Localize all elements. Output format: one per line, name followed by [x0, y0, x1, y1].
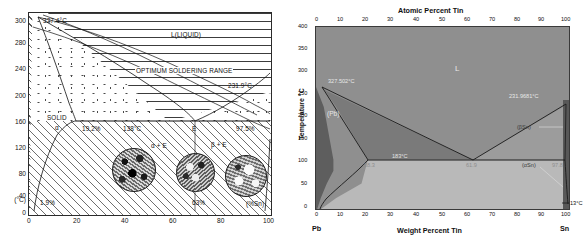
right-bottom-tick-80: 80 [514, 211, 520, 217]
left-annotation-room-solubility: 1.9% [40, 199, 55, 206]
right-endpoint-pb: Pb [312, 224, 321, 233]
left-x-tick-100: 100 [263, 217, 274, 224]
right-top-tick-10: 10 [337, 16, 343, 22]
left-x-tick-0: 0 [27, 217, 31, 224]
right-annotation-eutectic-temp: 183°C [392, 153, 408, 159]
right-top-tick-0: 0 [315, 16, 318, 22]
right-annotation-pb-melt: 327.502°C [328, 78, 355, 84]
right-y-tick-300: 300 [298, 67, 307, 73]
right-y-tick-0: 0 [304, 203, 307, 209]
left-annotation-sn-melt: 231.9°C [228, 82, 252, 89]
right-annotation-alpha-composition: 18.3 [364, 162, 375, 168]
right-top-tick-50: 50 [439, 16, 445, 22]
microstructure-circle-hypoeutectic [112, 148, 156, 192]
left-annotation-eutectic-point: E [192, 125, 196, 132]
right-label-beta-sn: (βSn) [517, 124, 531, 130]
left-y-tick-300: 300 [6, 17, 26, 24]
left-y-tick-0: 0 [6, 209, 26, 216]
left-x-tick-60: 60 [169, 217, 176, 224]
right-bottom-tick-30: 30 [387, 211, 393, 217]
left-label-liquid: L(LIQUID) [171, 31, 201, 38]
right-top-tick-40: 40 [413, 16, 419, 22]
right-annotation-eutectic-composition: 61.9 [466, 162, 477, 168]
left-label-optimum-range: OPTIMUM SOLDERING RANGE [135, 67, 233, 74]
right-top-tick-60: 60 [464, 16, 470, 22]
right-bottom-tick-90: 90 [538, 211, 544, 217]
right-bottom-tick-20: 20 [362, 211, 368, 217]
right-bottom-tick-70: 70 [489, 211, 495, 217]
left-y-tick-160: 160 [6, 118, 26, 125]
left-y-tick-240: 240 [6, 65, 26, 72]
left-y-tick-200: 200 [6, 92, 26, 99]
microstructure-circle-eutectic [176, 153, 215, 192]
right-top-tick-100: 100 [561, 16, 570, 22]
right-label-liquid: L [455, 64, 459, 73]
right-bottom-axis-title: Weight Percent Tin [397, 226, 462, 235]
left-label-alpha-plus-eutectic: α + E [151, 142, 167, 149]
right-bottom-tick-60: 60 [464, 211, 470, 217]
right-top-tick-30: 30 [387, 16, 393, 22]
left-annotation-beta-solubility: 97.5% [236, 125, 255, 132]
right-endpoint-sn: Sn [560, 224, 569, 233]
right-top-tick-20: 20 [362, 16, 368, 22]
right-bottom-tick-0: 0 [315, 211, 318, 217]
left-y-tick-120: 120 [6, 144, 26, 151]
right-bottom-tick-100: 100 [561, 211, 570, 217]
right-top-tick-90: 90 [538, 16, 544, 22]
left-label-solid: SOLID [46, 114, 68, 121]
right-top-tick-80: 80 [514, 16, 520, 22]
left-x-tick-80: 80 [217, 217, 224, 224]
right-annotation-beta-composition: 97.8 [552, 162, 563, 168]
left-label-beta-plus-eutectic: β + E [211, 141, 227, 148]
left-y-tick-280: 280 [6, 39, 26, 46]
right-plot-area: L (Pb) (βSn) (αSn) 327.502°C 231.9681°C … [315, 26, 570, 210]
left-plot-area: L(LIQUID) OPTIMUM SOLDERING RANGE SOLID … [28, 12, 272, 216]
left-y-tick-80: 80 [6, 170, 26, 177]
right-figure: Atomic Percent Tin 0 10 20 30 40 50 60 7… [293, 0, 586, 241]
left-x-axis-unit-inplot: (%Sn) [246, 200, 264, 207]
right-y-tick-400: 400 [298, 23, 307, 29]
left-x-tick-20: 20 [73, 217, 80, 224]
right-bottom-tick-10: 10 [337, 211, 343, 217]
left-annotation-eutectic-composition: 63% [192, 199, 205, 206]
right-annotation-allotropic-temp: 13°C [570, 200, 583, 206]
right-y-tick-100: 100 [298, 157, 307, 163]
left-x-tick-40: 40 [121, 217, 128, 224]
microstructure-circle-hypereutectic [225, 155, 267, 197]
left-figure: L(LIQUID) OPTIMUM SOLDERING RANGE SOLID … [0, 0, 293, 241]
left-annotation-eutectic-temp: 138°C [123, 125, 141, 132]
right-top-axis-title: Atomic Percent Tin [398, 6, 463, 15]
left-y-axis-unit: (°C) [2, 196, 26, 203]
right-label-alpha-sn: (αSn) [522, 162, 536, 168]
right-y-axis-title: Temperature °C [298, 88, 305, 140]
right-bottom-tick-50: 50 [439, 211, 445, 217]
left-annotation-alpha-symbol: α [55, 124, 59, 131]
right-label-alpha-pb: (Pb) [327, 110, 339, 117]
left-annotation-pb-melt: 327.4°C [43, 17, 67, 24]
right-y-tick-50: 50 [301, 180, 307, 186]
figure-pair-root: L(LIQUID) OPTIMUM SOLDERING RANGE SOLID … [0, 0, 586, 241]
right-y-tick-350: 350 [298, 45, 307, 51]
left-annotation-alpha-solubility: 19.2% [82, 125, 101, 132]
right-top-tick-70: 70 [489, 16, 495, 22]
right-annotation-sn-melt: 231.9681°C [509, 93, 539, 99]
right-bottom-tick-40: 40 [413, 211, 419, 217]
right-phase-boundaries [316, 27, 569, 209]
